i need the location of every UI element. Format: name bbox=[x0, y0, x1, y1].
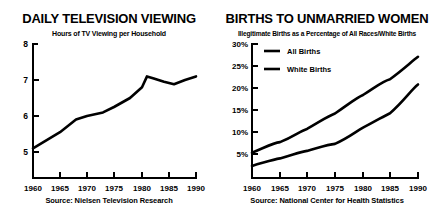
chart-panel-births-to-unmarried-women: BIRTHS TO UNMARRIED WOMEN Illegitimate B… bbox=[218, 0, 436, 222]
x-tick-label: 1980 bbox=[133, 184, 151, 193]
y-tick-label: 10% bbox=[232, 128, 248, 137]
x-tick-label: 1985 bbox=[160, 184, 178, 193]
chart-panel-daily-television-viewing: DAILY TELEVISION VIEWING Hours of TV Vie… bbox=[0, 0, 218, 222]
legend-label-all-births: All Births bbox=[287, 47, 320, 56]
legend-label-white-births: White Births bbox=[287, 65, 331, 74]
y-tick-label: 5 bbox=[23, 147, 28, 157]
x-tick-label: 1965 bbox=[51, 184, 69, 193]
x-tick-label: 1960 bbox=[24, 184, 42, 193]
x-tick-label: 1985 bbox=[381, 184, 399, 193]
data-series-white-births bbox=[252, 85, 418, 166]
page-title: DAILY TELEVISION VIEWING bbox=[0, 12, 218, 26]
x-tick-label: 1975 bbox=[105, 184, 123, 193]
line-chart-unmarried-births: 30% 25% 20% 15% 10% 5% All Births bbox=[218, 36, 436, 194]
data-series-all-births bbox=[252, 57, 418, 153]
x-tick-label: 1970 bbox=[298, 184, 316, 193]
page-title: BIRTHS TO UNMARRIED WOMEN bbox=[218, 12, 436, 26]
y-tick-label: 8 bbox=[23, 39, 28, 49]
x-tick-label: 1970 bbox=[78, 184, 96, 193]
y-tick-label: 20% bbox=[232, 84, 248, 93]
y-tick-label: 30% bbox=[232, 40, 248, 49]
chart-legend: All Births White Births bbox=[264, 47, 331, 74]
x-tick-label: 1980 bbox=[354, 184, 372, 193]
x-tick-label: 1965 bbox=[271, 184, 289, 193]
y-tick-label: 7 bbox=[23, 75, 28, 85]
y-tick-label: 25% bbox=[232, 62, 248, 71]
x-tick-label: 1975 bbox=[326, 184, 344, 193]
x-tick-label: 1990 bbox=[409, 184, 427, 193]
axis-frame bbox=[33, 44, 196, 178]
line-chart-tv-viewing: 8 7 6 5 1960 1965 1970 1975 1980 1985 19… bbox=[0, 36, 218, 194]
chart-source-note: Source: National Center for Health Stati… bbox=[218, 196, 436, 205]
y-tick-label: 5% bbox=[236, 150, 248, 159]
x-tick-label: 1960 bbox=[243, 184, 261, 193]
x-tick-label: 1990 bbox=[187, 184, 205, 193]
chart-source-note: Source: Nielsen Television Research bbox=[0, 196, 218, 205]
y-tick-label: 15% bbox=[232, 106, 248, 115]
data-series-tv-hours bbox=[33, 76, 196, 148]
y-tick-label: 6 bbox=[23, 111, 28, 121]
